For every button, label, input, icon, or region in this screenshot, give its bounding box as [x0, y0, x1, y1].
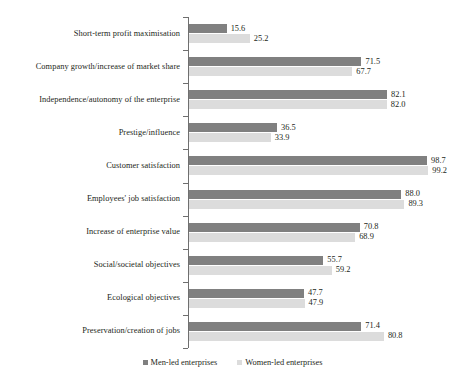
category-label: Company growth/increase of market share [0, 50, 180, 83]
bar-men[interactable] [189, 190, 401, 199]
bars-wrap: 82.182.0 [189, 83, 465, 116]
category-label: Prestige/influence [0, 116, 180, 149]
axis-tick [183, 50, 188, 51]
bars-wrap: 98.799.2 [189, 149, 465, 182]
bar-women[interactable] [189, 67, 352, 76]
bar-group: Social/societal objectives55.759.2 [0, 249, 465, 282]
category-label: Short-term profit maximisation [0, 17, 180, 50]
bar-group: Company growth/increase of market share7… [0, 50, 465, 83]
bar-value-label: 33.9 [275, 132, 290, 143]
bar-value-label: 89.3 [408, 198, 423, 209]
legend-swatch-men-icon [143, 360, 148, 365]
bar-men[interactable] [189, 57, 361, 66]
bar-value-label: 71.4 [365, 320, 380, 331]
category-label: Ecological objectives [0, 282, 180, 315]
axis-tick [183, 116, 188, 117]
axis-tick [183, 315, 188, 316]
bar-chart: Short-term profit maximisation15.625.2Co… [0, 0, 465, 389]
bar-value-label: 47.9 [309, 297, 324, 308]
axis-tick [183, 249, 188, 250]
bar-value-label: 67.7 [356, 66, 371, 77]
axis-tick [183, 282, 188, 283]
bar-men[interactable] [189, 156, 427, 165]
bar-value-label: 25.2 [254, 33, 269, 44]
legend-item-women[interactable]: Women-led enterprises [237, 358, 322, 367]
bar-women[interactable] [189, 133, 271, 142]
category-label: Independence/autonomy of the enterprise [0, 83, 180, 116]
bar-group: Customer satisfaction98.799.2 [0, 149, 465, 182]
bar-group: Short-term profit maximisation15.625.2 [0, 17, 465, 50]
bars-wrap: 55.759.2 [189, 249, 465, 282]
bar-men[interactable] [189, 123, 277, 132]
bars-wrap: 71.480.8 [189, 315, 465, 348]
bar-value-label: 68.9 [359, 231, 374, 242]
bar-group: Ecological objectives47.747.9 [0, 282, 465, 315]
category-label: Preservation/creation of jobs [0, 315, 180, 348]
bar-value-label: 15.6 [231, 23, 246, 34]
bar-women[interactable] [189, 34, 250, 43]
axis-tick [183, 83, 188, 84]
bar-men[interactable] [189, 322, 361, 331]
category-label: Customer satisfaction [0, 149, 180, 182]
category-label: Social/societal objectives [0, 249, 180, 282]
category-label: Employees' job satisfaction [0, 183, 180, 216]
bar-value-label: 80.8 [388, 330, 403, 341]
bars-wrap: 36.533.9 [189, 116, 465, 149]
bars-wrap: 70.868.9 [189, 216, 465, 249]
bar-group: Preservation/creation of jobs71.480.8 [0, 315, 465, 348]
bar-men[interactable] [189, 256, 323, 265]
bars-wrap: 71.567.7 [189, 50, 465, 83]
bar-men[interactable] [189, 90, 387, 99]
bar-women[interactable] [189, 332, 384, 341]
legend-label-men: Men-led enterprises [151, 358, 218, 367]
axis-tick [183, 183, 188, 184]
bar-women[interactable] [189, 166, 428, 175]
bar-women[interactable] [189, 100, 387, 109]
bar-value-label: 59.2 [336, 264, 351, 275]
bar-group: Employees' job satisfaction88.089.3 [0, 183, 465, 216]
category-label: Increase of enterprise value [0, 216, 180, 249]
bars-wrap: 15.625.2 [189, 17, 465, 50]
legend-item-men[interactable]: Men-led enterprises [143, 358, 218, 367]
chart-legend: Men-led enterprises Women-led enterprise… [0, 358, 465, 367]
bar-group: Increase of enterprise value70.868.9 [0, 216, 465, 249]
legend-swatch-women-icon [237, 360, 242, 365]
bar-value-label: 82.0 [391, 99, 406, 110]
bars-wrap: 47.747.9 [189, 282, 465, 315]
axis-tick [183, 17, 188, 18]
bar-women[interactable] [189, 233, 355, 242]
axis-tick [183, 149, 188, 150]
bar-men[interactable] [189, 223, 360, 232]
axis-tick [183, 216, 188, 217]
bar-men[interactable] [189, 24, 227, 33]
bar-group: Independence/autonomy of the enterprise8… [0, 83, 465, 116]
bar-group: Prestige/influence36.533.9 [0, 116, 465, 149]
bar-women[interactable] [189, 266, 332, 275]
bar-men[interactable] [189, 289, 304, 298]
bars-wrap: 88.089.3 [189, 183, 465, 216]
plot-area: Short-term profit maximisation15.625.2Co… [0, 0, 465, 352]
legend-label-women: Women-led enterprises [245, 358, 322, 367]
bar-women[interactable] [189, 299, 305, 308]
axis-tick-end [183, 348, 188, 349]
bar-women[interactable] [189, 200, 404, 209]
bar-value-label: 99.2 [432, 165, 447, 176]
